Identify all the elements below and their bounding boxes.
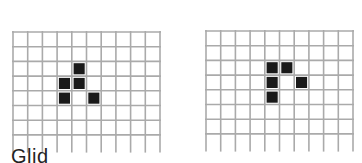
glider-generation-1 — [12, 31, 163, 155]
live-cell — [267, 62, 278, 73]
grid-left — [12, 31, 163, 155]
live-cell — [281, 62, 292, 73]
live-cell — [267, 92, 278, 103]
live-cell — [74, 63, 85, 74]
glider-generation-2 — [205, 30, 356, 154]
caption-label: Glid — [11, 145, 49, 163]
live-cell — [296, 77, 307, 88]
live-cell — [74, 78, 85, 89]
grid-right — [205, 30, 356, 154]
live-cell — [267, 77, 278, 88]
live-cell — [59, 78, 70, 89]
live-cell — [59, 93, 70, 104]
live-cell — [88, 93, 99, 104]
